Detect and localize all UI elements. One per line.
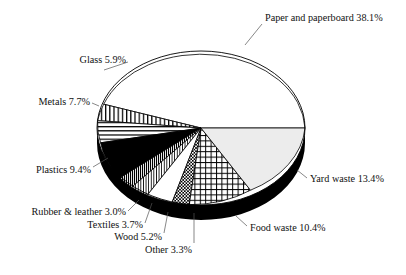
label-wood: Wood 5.2% [114,231,162,242]
label-glass: Glass 5.9% [80,54,127,65]
leader-rubber-and-leather [128,200,139,211]
leader-food-waste [236,216,247,226]
label-textiles: Textiles 3.7% [87,219,143,230]
label-other: Other 3.3% [145,244,192,255]
pie-chart: Paper and paperboard 38.1% Glass 5.9% Me… [0,0,406,275]
label-food-waste: Food waste 10.4% [250,222,326,233]
leader-yard-waste [297,170,307,178]
label-rubber-and-leather: Rubber & leather 3.0% [32,206,127,217]
leader-metals [92,103,99,106]
label-metals: Metals 7.7% [39,96,91,107]
label-plastics: Plastics 9.4% [36,164,91,175]
label-yard-waste: Yard waste 13.4% [310,173,384,184]
label-paper-and-paperboard: Paper and paperboard 38.1% [265,12,383,23]
pie-chart-svg: Paper and paperboard 38.1% Glass 5.9% Me… [0,0,406,275]
pie-slices [97,54,305,204]
leader-paper-and-paperboard [245,24,262,45]
